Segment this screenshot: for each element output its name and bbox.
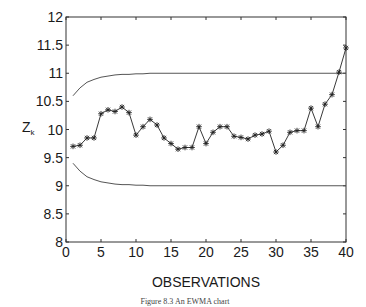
y-axis-title: Zk — [22, 119, 36, 137]
y-tick-label: 10.5 — [36, 93, 63, 109]
asterisk-marker — [245, 136, 251, 142]
x-tick-label: 25 — [233, 244, 249, 260]
x-tick-label: 0 — [62, 244, 70, 260]
asterisk-marker — [315, 124, 321, 130]
x-tick-label: 35 — [303, 244, 319, 260]
asterisk-marker — [133, 132, 139, 138]
asterisk-marker — [252, 132, 258, 138]
asterisk-marker — [98, 111, 104, 117]
asterisk-marker — [210, 130, 216, 136]
asterisk-marker — [231, 133, 237, 139]
asterisk-marker — [161, 135, 167, 141]
y-tick-label: 11.5 — [37, 37, 63, 53]
asterisk-marker — [154, 122, 160, 128]
asterisk-marker — [294, 128, 300, 134]
x-axis-ticks: 0510152025303540 — [62, 17, 354, 260]
asterisk-marker — [224, 124, 230, 130]
y-axis-ticks: 88.599.51010.51111.512 — [36, 9, 346, 250]
y-tick-label: 9 — [55, 178, 63, 194]
asterisk-marker — [336, 69, 342, 75]
asterisk-marker — [105, 107, 111, 113]
y-tick-label: 12 — [47, 9, 63, 25]
asterisk-marker — [280, 142, 286, 148]
asterisk-marker — [266, 128, 272, 134]
asterisk-marker — [119, 104, 125, 110]
y-tick-label: 11 — [48, 65, 63, 81]
figure-caption: Figure 8.3 An EWMA chart — [140, 297, 230, 306]
asterisk-marker — [112, 109, 118, 115]
asterisk-marker — [308, 105, 314, 111]
asterisk-marker — [168, 141, 174, 147]
asterisk-marker — [70, 144, 76, 150]
asterisk-marker — [140, 124, 146, 130]
upper-control-limit — [73, 73, 346, 96]
asterisk-marker — [238, 135, 244, 141]
asterisk-marker — [322, 101, 328, 107]
lower-control-limit — [73, 163, 346, 186]
asterisk-marker — [91, 135, 97, 141]
asterisk-marker — [329, 92, 335, 98]
asterisk-marker — [77, 142, 83, 148]
x-tick-label: 15 — [163, 244, 179, 260]
asterisk-marker — [175, 146, 181, 152]
x-tick-label: 40 — [338, 244, 354, 260]
asterisk-marker — [84, 135, 90, 141]
asterisk-marker — [273, 149, 279, 155]
asterisk-marker — [287, 130, 293, 136]
asterisk-marker — [203, 141, 209, 147]
asterisk-marker — [217, 124, 223, 130]
y-tick-label: 8.5 — [44, 206, 64, 222]
asterisk-marker — [259, 131, 265, 137]
asterisk-marker — [189, 145, 195, 151]
asterisk-marker — [182, 145, 188, 151]
asterisk-marker — [343, 45, 349, 51]
asterisk-marker — [126, 110, 132, 116]
x-tick-label: 20 — [198, 244, 214, 260]
x-tick-label: 5 — [97, 244, 105, 260]
y-tick-label: 9.5 — [44, 150, 64, 166]
x-axis-title: OBSERVATIONS — [152, 274, 260, 290]
x-tick-label: 10 — [128, 244, 144, 260]
asterisk-marker — [196, 124, 202, 130]
asterisk-marker — [147, 117, 153, 123]
y-tick-label: 10 — [47, 122, 63, 138]
ewma-chart: 88.599.51010.51111.512 0510152025303540 … — [0, 0, 366, 307]
zk-line — [73, 48, 346, 152]
asterisk-marker — [301, 128, 307, 134]
zk-series — [70, 45, 349, 155]
x-tick-label: 30 — [268, 244, 284, 260]
